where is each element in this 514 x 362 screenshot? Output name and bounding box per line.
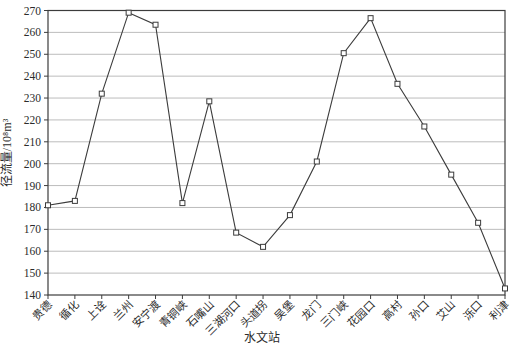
data-point-marker: [72, 198, 77, 203]
y-tick-label: 160: [24, 245, 42, 257]
data-point-marker: [314, 159, 319, 164]
data-point-marker: [341, 51, 346, 56]
y-tick-label: 210: [24, 136, 42, 148]
y-tick-label: 260: [24, 26, 42, 38]
runoff-line-chart-figure: 1401501601701801902002102202302402502602…: [0, 0, 514, 362]
data-point-marker: [449, 172, 454, 177]
data-point-marker: [287, 213, 292, 218]
data-point-marker: [99, 91, 104, 96]
y-tick-label: 270: [24, 5, 42, 17]
x-axis-title: 水文站: [244, 330, 280, 345]
x-tick-label: 三门峡: [318, 297, 351, 330]
data-point-marker: [368, 16, 373, 21]
data-point-marker: [180, 201, 185, 206]
data-point-marker: [476, 220, 481, 225]
data-point-marker: [503, 286, 508, 291]
x-tick-label: 兰州: [111, 298, 135, 322]
data-point-marker: [395, 81, 400, 86]
y-tick-label: 140: [24, 289, 42, 301]
x-tick-label: 高村: [379, 297, 404, 322]
x-tick-label: 循化: [57, 297, 82, 322]
data-point-marker: [153, 22, 158, 27]
x-tick-label: 艾山: [434, 298, 458, 322]
x-tick-label: 花园口: [345, 298, 377, 330]
x-tick-label: 青铜峡: [156, 297, 189, 330]
y-tick-label: 250: [24, 48, 42, 60]
x-tick-label: 利津: [487, 298, 511, 322]
y-tick-label: 240: [24, 70, 42, 82]
data-point-marker: [261, 244, 266, 249]
y-tick-label: 220: [24, 114, 42, 126]
data-point-marker: [126, 10, 131, 15]
x-tick-label: 龙门: [298, 297, 323, 322]
x-tick-label: 吴堡: [272, 297, 297, 322]
x-tick-label: 安宁渡: [129, 297, 162, 330]
chart-canvas: 1401501601701801902002102202302402502602…: [0, 0, 514, 362]
y-tick-label: 150: [24, 267, 42, 279]
plot-frame: [48, 11, 505, 296]
x-tick-label: 孙口: [407, 298, 431, 322]
y-axis-title: 径流量/10⁸m³: [0, 118, 14, 187]
data-point-marker: [422, 124, 427, 129]
data-point-marker: [234, 230, 239, 235]
y-tick-label: 180: [24, 201, 42, 213]
x-tick-label: 头道拐: [237, 297, 270, 330]
data-point-marker: [46, 203, 51, 208]
y-tick-label: 190: [24, 180, 42, 192]
y-tick-label: 200: [24, 158, 42, 170]
x-tick-label: 上诠: [83, 297, 108, 322]
chart-plot-area: 1401501601701801902002102202302402502602…: [24, 5, 512, 338]
data-point-marker: [207, 99, 212, 104]
x-tick-label: 泺口: [460, 298, 484, 322]
y-tick-label: 230: [24, 92, 42, 104]
y-tick-label: 170: [24, 223, 42, 235]
